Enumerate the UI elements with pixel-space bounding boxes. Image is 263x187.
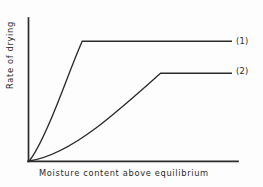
chart-plot-area <box>0 0 263 187</box>
curve-series-1 <box>29 41 232 161</box>
curve-series-2 <box>29 73 232 161</box>
x-axis-label: Moisture content above equilibrium <box>39 168 249 178</box>
series-2-label: (2) <box>236 66 248 76</box>
chart-figure: Rate of drying Moisture content above eq… <box>0 0 263 187</box>
series-1-label: (1) <box>236 36 248 46</box>
y-axis-label: Rate of drying <box>5 5 15 105</box>
y-axis-label-container: Rate of drying <box>5 5 19 105</box>
